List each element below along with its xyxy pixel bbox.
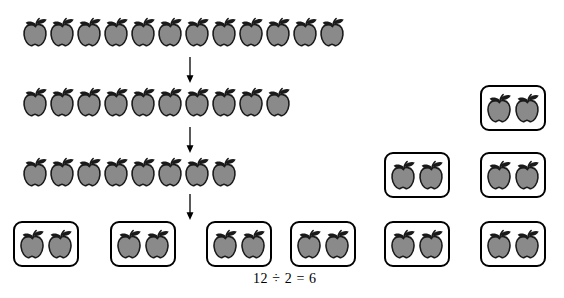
apple-icon [76,152,102,192]
group-box-5 [110,221,176,267]
apple-icon [514,156,540,194]
apple-icon [238,82,264,122]
apple-icon [157,82,183,122]
apple-icon [211,152,237,192]
apple-icon [319,12,345,52]
group-box-1 [480,85,546,131]
apple-icon [22,152,48,192]
apple-icon [418,156,444,194]
apple-icon [47,225,73,263]
apple-icon [103,12,129,52]
apple-icon [22,12,48,52]
apple-icon [240,225,266,263]
group-box-4 [13,221,79,267]
apple-icon [486,89,512,127]
arrow-1 [181,57,199,87]
group-box-3 [480,152,546,198]
apple-icon [76,82,102,122]
division-equation: 12 ÷ 2 = 6 [253,271,317,287]
apple-icon [418,225,444,263]
apple-icon [76,12,102,52]
arrow-3 [181,194,199,224]
apple-icon [390,156,416,194]
apple-icon [130,152,156,192]
apple-icon [157,12,183,52]
apple-icon [292,12,318,52]
apple-icon [265,12,291,52]
apple-icon [49,152,75,192]
group-box-9 [480,221,546,267]
apple-icon [514,89,540,127]
apple-icon [103,152,129,192]
arrow-2 [181,127,199,157]
apple-icon [486,225,512,263]
apple-icon [49,12,75,52]
group-box-8 [384,221,450,267]
apple-icon [324,225,350,263]
row-3-eight-apples [22,152,238,192]
apple-icon [19,225,45,263]
row-2-ten-apples [22,82,292,122]
apple-icon [211,12,237,52]
apple-icon [22,82,48,122]
down-arrow-icon [181,57,199,83]
down-arrow-icon [181,127,199,153]
apple-icon [184,12,210,52]
apple-icon [390,225,416,263]
down-arrow-icon [181,194,199,220]
apple-icon [130,12,156,52]
apple-icon [116,225,142,263]
apple-icon [486,156,512,194]
apple-icon [103,82,129,122]
apple-icon [212,225,238,263]
apple-icon [184,82,210,122]
group-box-2 [384,152,450,198]
apple-icon [184,152,210,192]
apple-icon [514,225,540,263]
group-box-7 [290,221,356,267]
group-box-6 [206,221,272,267]
apple-icon [296,225,322,263]
row-1-twelve-apples [22,12,346,52]
apple-icon [130,82,156,122]
apple-icon [157,152,183,192]
apple-icon [144,225,170,263]
apple-icon [265,82,291,122]
apple-icon [211,82,237,122]
apple-icon [49,82,75,122]
apple-icon [238,12,264,52]
figure-canvas: 12 ÷ 2 = 6 [0,0,564,298]
